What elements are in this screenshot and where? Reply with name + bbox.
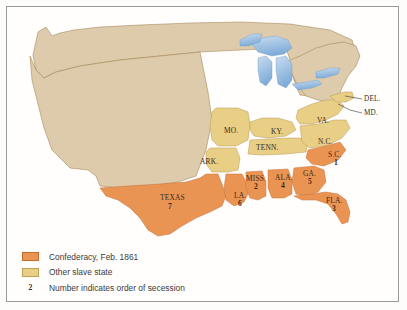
state-number-south-carolina: 1	[334, 158, 338, 167]
state-number-mississippi: 2	[254, 182, 258, 191]
state-label-missouri: MO.	[224, 126, 238, 135]
legend-item-confederacy: Confederacy, Feb. 1861	[22, 250, 322, 263]
legend-swatch-confederacy	[22, 252, 39, 261]
legend-label-order-of-secession: Number indicates order of secession	[49, 283, 185, 293]
state-label-texas: TEXAS	[160, 193, 185, 202]
state-label-kentucky: KY.	[271, 127, 283, 136]
state-number-georgia: 5	[308, 177, 312, 186]
legend-label-confederacy: Confederacy, Feb. 1861	[49, 252, 138, 262]
state-label-maryland: MD.	[364, 109, 378, 117]
state-number-florida: 3	[332, 204, 336, 213]
state-label-virginia: VA.	[317, 116, 329, 125]
state-number-alabama: 4	[281, 181, 285, 190]
legend-item-order-of-secession: 2 Number indicates order of secession	[22, 281, 322, 294]
legend-marker-number: 2	[22, 283, 39, 292]
state-label-delaware: DEL.	[364, 95, 381, 103]
state-label-north-carolina: N.C.	[318, 137, 333, 146]
state-number-texas: 7	[168, 202, 172, 211]
map-figure: TEXAS 7 LA. 6 MISS. 2 ALA. 4 GA. 5 FLA. …	[0, 0, 407, 310]
state-number-louisiana: 6	[238, 199, 242, 208]
western-states-region	[30, 52, 212, 188]
legend-item-other-slave-state: Other slave state	[22, 266, 322, 279]
state-label-tennessee: TENN.	[256, 143, 279, 152]
map-legend: Confederacy, Feb. 1861 Other slave state…	[22, 250, 322, 297]
legend-swatch-other-slave-state	[22, 268, 39, 277]
legend-label-other-slave-state: Other slave state	[49, 267, 112, 277]
state-label-arkansas: ARK.	[200, 157, 218, 166]
